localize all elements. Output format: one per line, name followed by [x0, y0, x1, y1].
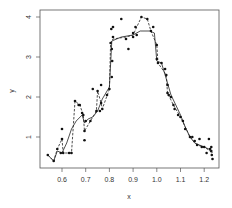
data-point [110, 28, 113, 31]
data-point [112, 26, 115, 29]
data-point [146, 18, 149, 21]
data-point [203, 146, 206, 149]
x-tick-label: 0.9 [128, 176, 138, 183]
x-tick-label: 1.1 [176, 176, 186, 183]
y-axis: 1234 [25, 15, 40, 139]
data-point [208, 138, 211, 141]
scatter-plot: 0.60.70.80.91.01.11.2 1234 x y [0, 0, 232, 208]
data-point [198, 138, 201, 141]
data-point [111, 48, 114, 51]
data-point [152, 26, 155, 29]
data-point [132, 36, 135, 39]
y-tick-label: 2 [25, 95, 32, 99]
data-point [125, 38, 128, 41]
data-point [60, 152, 63, 155]
data-point [211, 154, 214, 157]
data-point [166, 84, 169, 87]
data-point [134, 26, 137, 29]
x-tick-label: 0.6 [57, 176, 67, 183]
data-point [112, 36, 115, 39]
data-point [62, 152, 65, 155]
data-point [173, 108, 176, 111]
data-point [127, 48, 130, 51]
data-point [205, 152, 208, 155]
data-points [47, 16, 214, 163]
data-point [101, 108, 104, 111]
data-point [140, 16, 143, 19]
x-tick-label: 0.7 [81, 176, 91, 183]
data-point [74, 100, 77, 103]
data-point [82, 114, 85, 117]
data-point [83, 139, 86, 142]
x-tick-label: 1.0 [152, 176, 162, 183]
y-tick-label: 3 [25, 55, 32, 59]
data-point [111, 60, 114, 63]
y-axis-label: y [8, 89, 16, 93]
data-point [61, 138, 64, 141]
data-point [109, 42, 112, 45]
data-point [56, 148, 59, 151]
data-point [100, 102, 103, 105]
data-point [84, 120, 87, 123]
data-point [167, 94, 170, 97]
x-tick-label: 0.8 [105, 176, 115, 183]
data-point [210, 146, 213, 149]
data-point [70, 152, 73, 155]
x-axis-label: x [127, 193, 131, 200]
data-point [92, 88, 95, 91]
data-point [47, 154, 50, 157]
series-lines [48, 17, 213, 161]
y-tick-label: 1 [25, 135, 32, 139]
data-point [108, 88, 111, 91]
data-point [111, 76, 114, 79]
data-point [211, 158, 214, 161]
data-point [196, 144, 199, 147]
data-point [193, 140, 196, 143]
data-point [184, 128, 187, 131]
data-point [156, 58, 159, 61]
data-point [165, 74, 168, 77]
data-point [210, 150, 213, 153]
data-point [68, 152, 71, 155]
data-point [61, 128, 64, 131]
x-axis: 0.60.70.80.91.01.11.2 [57, 168, 209, 183]
data-point [201, 146, 204, 149]
data-point [191, 136, 194, 139]
data-point [106, 94, 109, 97]
data-point [182, 120, 185, 123]
data-point [79, 104, 82, 107]
x-tick-label: 1.2 [199, 176, 209, 183]
data-point [170, 96, 173, 99]
data-point [177, 114, 180, 117]
data-point [156, 44, 159, 47]
data-point [83, 130, 86, 133]
data-point [95, 110, 98, 113]
data-point [164, 68, 167, 71]
data-point [100, 84, 103, 87]
data-point [120, 18, 123, 21]
data-point [157, 62, 160, 65]
data-point [96, 90, 99, 93]
data-point [89, 120, 92, 123]
data-point [172, 104, 175, 107]
data-point [179, 116, 182, 119]
dashed-step-line [48, 17, 213, 161]
data-point [135, 34, 138, 37]
data-point [99, 110, 102, 113]
y-tick-label: 4 [25, 15, 32, 19]
data-point [150, 30, 153, 33]
data-point [132, 32, 135, 35]
data-point [160, 62, 163, 65]
plot-frame [40, 10, 219, 168]
data-point [52, 160, 55, 163]
data-point [189, 136, 192, 139]
